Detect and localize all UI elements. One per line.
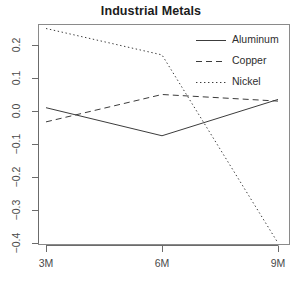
legend-label-aluminum: Aluminum xyxy=(232,33,279,45)
y-axis-tick-label: −0.1 xyxy=(9,129,23,159)
x-axis-ticks xyxy=(47,246,279,253)
series-line-aluminum xyxy=(46,99,278,135)
series-line-copper xyxy=(46,95,278,122)
y-axis-tick-label: −0.2 xyxy=(9,162,23,192)
legend-label-copper: Copper xyxy=(232,54,266,66)
x-axis-tick-label: 9M xyxy=(258,257,298,269)
legend-label-nickel: Nickel xyxy=(232,75,261,87)
y-axis-tick-label: −0.3 xyxy=(9,195,23,225)
x-axis xyxy=(46,246,279,253)
y-axis-tick-label: 0.2 xyxy=(9,30,23,60)
y-axis-ticks xyxy=(32,46,39,244)
chart-container: Industrial Metals 0.20.10.0−0.1−0.2−0.3−… xyxy=(0,0,302,282)
x-axis-tick-label: 3M xyxy=(26,257,66,269)
legend-line-samples xyxy=(196,41,226,83)
y-axis-tick-label: 0.1 xyxy=(9,63,23,93)
y-axis-tick-label: 0.0 xyxy=(9,96,23,126)
y-axis xyxy=(32,45,39,244)
x-axis-tick-label: 6M xyxy=(142,257,182,269)
y-axis-tick-label: −0.4 xyxy=(9,228,23,258)
